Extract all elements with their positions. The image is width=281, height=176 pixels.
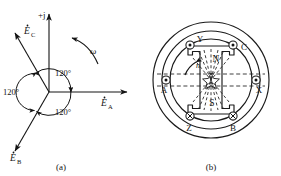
rotor-south-pole-label: S: [209, 98, 214, 108]
rotor-north-pole-label: N: [213, 54, 220, 64]
angle-label-top: 120°: [55, 68, 71, 78]
slot-y-label: Y: [197, 34, 204, 44]
rotor-speed-label: n: [196, 61, 200, 70]
angle-label-left: 120°: [3, 87, 19, 97]
panel-a-caption: (a): [56, 162, 66, 172]
phasor-ec-line: [15, 33, 49, 92]
phasor-eb-label: E B: [9, 152, 22, 165]
eb-subscript: B: [17, 158, 22, 165]
ea-subscript: A: [108, 103, 113, 110]
slot-conductor-x: X: [252, 76, 263, 95]
panel-b-caption: (b): [206, 162, 217, 172]
omega-label: ω: [90, 46, 96, 56]
slot-a-label: A: [161, 85, 168, 95]
angle-label-bottom: 120°: [55, 107, 71, 117]
slot-x-label: X: [256, 85, 263, 95]
slot-z-label: Z: [186, 123, 192, 133]
slot-conductor-c: C: [229, 41, 247, 52]
phasor-eb-line: [15, 92, 49, 151]
eb-symbol: E: [9, 153, 16, 163]
slot-x-dot-icon: [255, 79, 258, 82]
slot-a-dot-icon: [165, 79, 168, 82]
slot-conductor-b: B: [229, 112, 237, 133]
slot-conductor-z: Z: [186, 112, 194, 133]
slot-y-dot-icon: [189, 44, 192, 47]
phasor-ea-label: E A: [100, 97, 113, 110]
rotor-speed-arrow: [185, 62, 196, 75]
ea-symbol: E: [100, 98, 107, 108]
panel-a-phasor-diagram: +j ω E A E C E B 120° 120° 120° (a): [0, 0, 140, 176]
slot-c-dot-icon: [232, 44, 235, 47]
figure-canvas: +j ω E A E C E B 120° 120° 120° (a): [0, 0, 281, 176]
slot-conductor-a: A: [161, 76, 170, 95]
ec-symbol: E: [23, 26, 30, 36]
imaginary-axis-label: +j: [38, 10, 46, 20]
slot-b-label: B: [230, 123, 236, 133]
slot-c-label: C: [241, 42, 247, 52]
ec-subscript: C: [31, 31, 35, 38]
panel-b-machine-diagram: n N S Y C X B: [141, 0, 281, 176]
phasor-ec-label: E C: [23, 25, 35, 38]
